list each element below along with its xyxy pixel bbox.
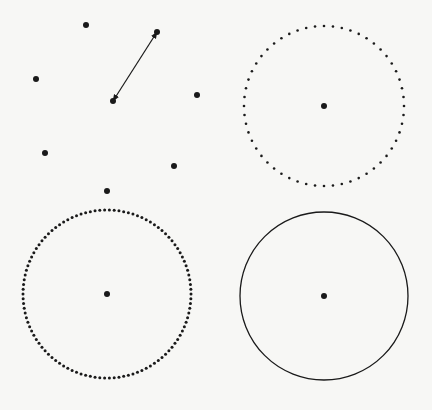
circle-dot	[71, 369, 74, 372]
center-point	[104, 291, 110, 297]
circle-dot	[251, 70, 254, 73]
circle-dot	[58, 223, 61, 226]
circle-dot	[32, 334, 35, 337]
circle-dot	[50, 229, 53, 232]
circle-dot	[323, 25, 326, 28]
circle-dot	[145, 218, 148, 221]
circle-dot	[266, 161, 269, 164]
circle-dot	[185, 264, 188, 267]
dense-dotted-circle-panel	[22, 209, 193, 380]
circle-dot	[89, 210, 92, 213]
circle-dot	[185, 321, 188, 324]
circle-dot	[66, 218, 69, 221]
circle-dot	[190, 293, 193, 296]
circle-dot	[113, 209, 116, 212]
circle-dot	[379, 48, 382, 51]
circle-dot	[131, 213, 134, 216]
circle-dot	[186, 269, 189, 272]
circle-dot	[305, 183, 308, 186]
circle-dot	[84, 374, 87, 377]
double-arrow	[113, 32, 157, 101]
circle-dot	[98, 209, 101, 212]
circle-dot	[30, 255, 33, 258]
circle-dot	[113, 376, 116, 379]
circle-dot	[71, 216, 74, 219]
circle-dot	[171, 346, 174, 349]
circle-dot	[80, 213, 83, 216]
circle-dot	[171, 239, 174, 242]
circle-dot	[332, 184, 335, 187]
circle-dot	[157, 226, 160, 229]
scatter-points-panel	[33, 22, 200, 194]
circle-dot	[40, 239, 43, 242]
circle-dot	[260, 155, 263, 158]
circle-dot	[365, 37, 368, 40]
circle-dot	[38, 342, 41, 345]
circle-dot	[54, 359, 57, 362]
circle-dot	[186, 316, 189, 319]
circle-dot	[349, 29, 352, 32]
circle-dot	[189, 283, 192, 286]
circle-dot	[157, 359, 160, 362]
circle-dot	[25, 316, 28, 319]
circle-dot	[28, 260, 31, 263]
circle-dot	[401, 123, 404, 126]
circle-dot	[94, 209, 97, 212]
circle-dot	[44, 236, 47, 239]
circle-dot	[187, 312, 190, 315]
circle-dot	[173, 342, 176, 345]
circle-dot	[181, 255, 184, 258]
circle-dot	[62, 364, 65, 367]
circle-dot	[22, 288, 25, 291]
circle-dot	[251, 139, 254, 142]
circle-dot	[24, 312, 27, 315]
point	[42, 150, 48, 156]
circle-dot	[179, 251, 182, 254]
circle-dot	[288, 33, 291, 36]
circle-dot	[385, 155, 388, 158]
circle-dot	[247, 78, 250, 81]
circle-dot	[75, 371, 78, 374]
circle-dot	[323, 185, 326, 188]
circle-dot	[25, 269, 28, 272]
circle-dot	[390, 147, 393, 150]
point	[171, 163, 177, 169]
circle-dot	[131, 372, 134, 375]
circle-dot	[243, 114, 246, 117]
circle-dot	[164, 232, 167, 235]
circle-dot	[260, 55, 263, 58]
circle-dot	[243, 105, 246, 108]
circle-dot	[296, 180, 299, 183]
circle-dot	[164, 353, 167, 356]
circle-dot	[167, 236, 170, 239]
circle-dot	[22, 297, 25, 300]
circle-dot	[98, 376, 101, 379]
circle-dot	[127, 211, 130, 214]
circle-dot	[127, 374, 130, 377]
circle-dot	[26, 321, 29, 324]
circle-dot	[349, 180, 352, 183]
circle-dot	[32, 251, 35, 254]
circle-dot	[136, 214, 139, 217]
circle-dot	[145, 367, 148, 370]
circle-dot	[75, 214, 78, 217]
center-point	[321, 293, 327, 299]
circle-dot	[117, 376, 120, 379]
circle-dot	[255, 147, 258, 150]
circle-dot	[161, 229, 164, 232]
circle-dot	[103, 209, 106, 212]
circle-dot	[385, 55, 388, 58]
circle-dot	[173, 243, 176, 246]
circle-dot	[54, 226, 57, 229]
point	[104, 188, 110, 194]
point	[110, 98, 116, 104]
sparse-dotted-circle-panel	[243, 25, 406, 188]
circle-dot	[398, 131, 401, 134]
circle-dot	[50, 356, 53, 359]
circle-dot	[187, 273, 190, 276]
circle-dot	[94, 376, 97, 379]
circle-dot	[357, 177, 360, 180]
circle-dot	[179, 334, 182, 337]
circle-dot	[22, 293, 25, 296]
circle-dot	[30, 330, 33, 333]
